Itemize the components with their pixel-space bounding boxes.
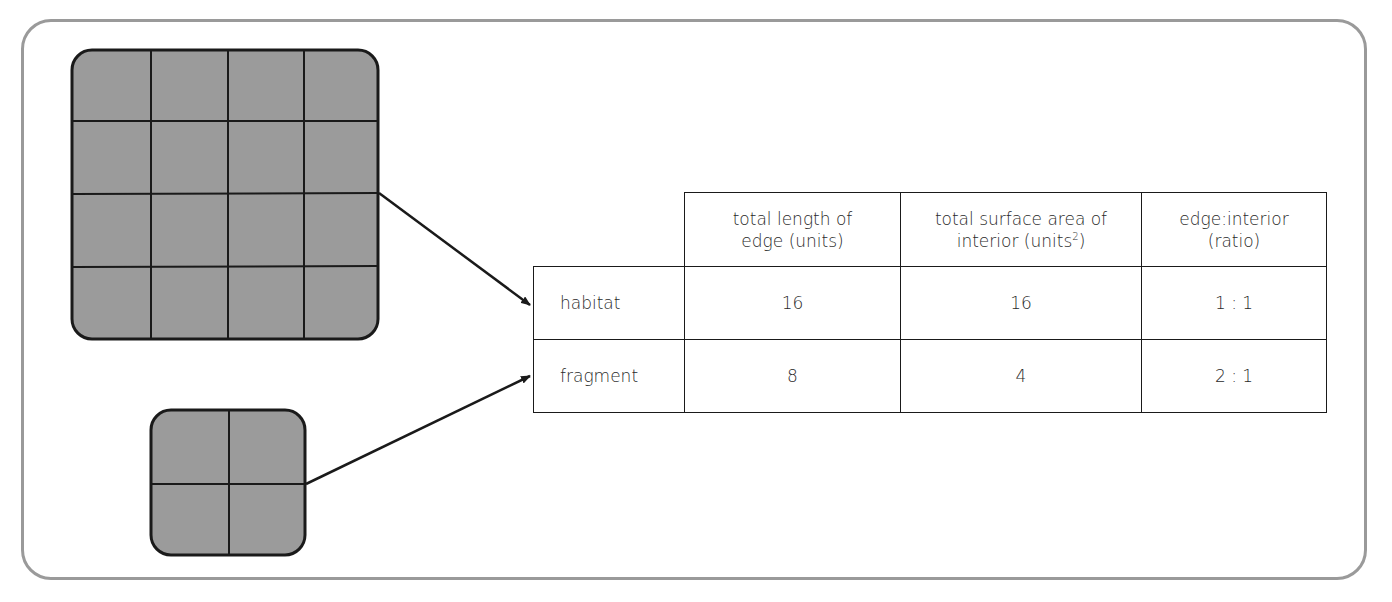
- row-label-fragment: fragment: [534, 340, 685, 413]
- cell-edge: 8: [685, 340, 901, 413]
- header-interior-area: total surface area of interior (units2): [901, 193, 1142, 267]
- header-edge-length: total length of edge (units): [685, 193, 901, 267]
- cell-edge: 16: [685, 267, 901, 340]
- fragment-grid-shape: [151, 410, 305, 555]
- edge-interior-table: total length of edge (units) total surfa…: [533, 192, 1327, 413]
- cell-ratio: 2 : 1: [1142, 340, 1327, 413]
- habitat-grid-shape: [72, 50, 378, 339]
- table-row: fragment 8 4 2 : 1: [534, 340, 1327, 413]
- table-header-row: total length of edge (units) total surfa…: [534, 193, 1327, 267]
- header-ratio: edge:interior (ratio): [1142, 193, 1327, 267]
- cell-interior: 16: [901, 267, 1142, 340]
- cell-interior: 4: [901, 340, 1142, 413]
- table-corner-blank: [534, 193, 685, 267]
- cell-ratio: 1 : 1: [1142, 267, 1327, 340]
- arrow-habitat: [379, 193, 530, 305]
- table-row: habitat 16 16 1 : 1: [534, 267, 1327, 340]
- row-label-habitat: habitat: [534, 267, 685, 340]
- arrow-fragment: [306, 376, 530, 484]
